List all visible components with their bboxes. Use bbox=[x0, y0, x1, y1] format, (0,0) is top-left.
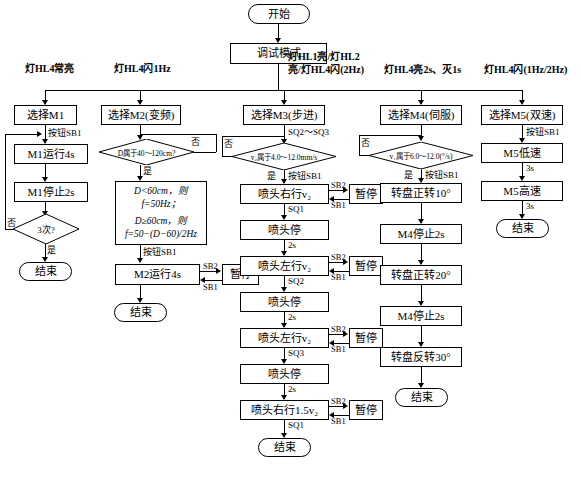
label-m4-button-sb1: 按钮SB1 bbox=[425, 168, 459, 181]
m2-no-loop-return bbox=[141, 134, 216, 135]
node-select-m3: 选择M3(步进) bbox=[243, 105, 325, 125]
m3-sb2-line-2 bbox=[329, 262, 344, 263]
node-m3-s6: 喷头停 bbox=[240, 364, 329, 384]
node-m3-end-label: 结束 bbox=[274, 441, 296, 454]
node-m1-run-label: M1运行4s bbox=[27, 148, 74, 161]
node-m2-run: M2运行4s bbox=[115, 264, 200, 285]
node-m1-decision-label: 3次? bbox=[13, 214, 79, 244]
node-m3-decision-label: v₂属于4.0～12.0mm/s bbox=[232, 143, 336, 170]
node-select-m5: 选择M5(双速) bbox=[481, 105, 563, 125]
label-m3-sb1-3: SB1 bbox=[331, 344, 346, 354]
node-m5-end-label: 结束 bbox=[512, 222, 534, 235]
node-select-m2: 选择M2(变频) bbox=[101, 105, 181, 125]
label-m2-yes: 是 bbox=[143, 164, 152, 177]
label-m5-t2: 3s bbox=[526, 201, 534, 211]
node-m3-end: 结束 bbox=[258, 438, 311, 457]
branch-label-m1: 灯HL4常亮 bbox=[25, 60, 74, 75]
node-m3-s5: 喷头左行v₂ bbox=[240, 328, 329, 348]
node-m5-s2: M5高速 bbox=[481, 181, 563, 201]
m1-no-loop-h bbox=[5, 229, 14, 230]
label-m1-button-sb1: 按钮SB1 bbox=[48, 126, 82, 139]
node-m3-s2-label: 喷头停 bbox=[268, 224, 301, 237]
node-m4-s2-label: M4停止2s bbox=[397, 228, 444, 241]
node-m3-pause-2-label: 暂停 bbox=[355, 260, 377, 273]
label-m3-sb1-1: SB1 bbox=[331, 200, 346, 210]
node-m4-s1: 转盘正转10° bbox=[380, 183, 462, 203]
label-m1-no: 否 bbox=[7, 216, 16, 229]
node-m3-s4: 喷头停 bbox=[240, 292, 329, 312]
node-m1-decision: 3次? bbox=[13, 214, 79, 244]
node-m5-end: 结束 bbox=[496, 219, 549, 238]
label-m3-yes: 是 bbox=[267, 169, 276, 182]
m3-no-loop-h bbox=[222, 156, 233, 157]
node-start-label: 开始 bbox=[268, 8, 290, 21]
branch-label-m4: 灯HL4亮2s、灭1s bbox=[384, 61, 461, 76]
node-m4-s3: 转盘正转20° bbox=[380, 265, 462, 285]
m2-no-loop-v bbox=[216, 134, 217, 152]
label-m5-t1: 3s bbox=[526, 163, 534, 173]
m3-sb2-line-3 bbox=[329, 334, 344, 335]
label-m2-sb2: SB2 bbox=[203, 261, 218, 271]
label-m3-sb2-2: SB2 bbox=[331, 252, 346, 262]
node-m4-s3-label: 转盘正转20° bbox=[391, 269, 450, 282]
node-m3-s7: 喷头右行1.5v₂ bbox=[240, 400, 329, 420]
label-m4-no: 否 bbox=[361, 136, 370, 149]
label-m3-t5: SQ3 bbox=[288, 348, 304, 358]
m2-sb1-line bbox=[205, 280, 222, 281]
node-m3-pause-2: 暂停 bbox=[349, 256, 383, 276]
node-m3-pause-1: 暂停 bbox=[349, 184, 383, 204]
node-select-m4-label: 选择M4(伺服) bbox=[388, 109, 455, 122]
m2-sb2-line bbox=[200, 271, 217, 272]
arrow-m4-select-decision bbox=[418, 136, 424, 141]
label-m4-yes: 是 bbox=[404, 168, 413, 181]
node-m2-end: 结束 bbox=[114, 303, 167, 322]
node-m2-formula-line3: D≥60cm，则 bbox=[135, 215, 188, 228]
node-m2-decision: D属于40～120cm? bbox=[99, 139, 194, 165]
node-select-m2-label: 选择M2(变频) bbox=[108, 109, 175, 122]
node-m5-s2-label: M5高速 bbox=[503, 185, 540, 198]
node-m3-pause-4-label: 暂停 bbox=[355, 404, 377, 417]
node-m3-pause-3: 暂停 bbox=[349, 328, 383, 348]
label-m3-t3: SQ2 bbox=[288, 276, 304, 286]
node-select-m5-label: 选择M5(双速) bbox=[489, 109, 556, 122]
node-m4-decision-label: v₁属于6.0～12.0(°/s) bbox=[369, 142, 473, 169]
m1-no-loop-v bbox=[5, 134, 6, 229]
node-m4-end-label: 结束 bbox=[411, 391, 433, 404]
node-m4-decision: v₁属于6.0～12.0(°/s) bbox=[369, 142, 473, 169]
node-m3-s3-label: 喷头左行v₂ bbox=[258, 260, 311, 273]
node-m5-s1: M5低速 bbox=[481, 143, 563, 163]
label-m3-button-sb1: 按钮SB1 bbox=[288, 169, 322, 182]
label-m3-sb1-2: SB1 bbox=[331, 272, 346, 282]
node-m4-s2: M4停止2s bbox=[380, 224, 462, 244]
flowchart-canvas: 开始 调试模式 灯HL4常亮 灯HL4闪1Hz 灯HL1亮/灯HL2 亮/灯HL… bbox=[0, 0, 581, 478]
m3-sb2-line-4 bbox=[329, 406, 344, 407]
node-m3-s1-label: 喷头右行v₂ bbox=[258, 188, 311, 201]
node-m1-run: M1运行4s bbox=[14, 144, 88, 164]
m2-no-loop-h bbox=[194, 152, 216, 153]
node-m2-formula: D<60cm，则 f=50Hz； D≥60cm，则 f=50−(D−60)/2H… bbox=[115, 181, 207, 245]
label-m2-sb1: SB1 bbox=[203, 282, 218, 292]
node-m3-s4-label: 喷头停 bbox=[268, 296, 301, 309]
node-m3-s1: 喷头右行v₂ bbox=[240, 184, 329, 204]
node-m1-stop: M1停止2s bbox=[14, 182, 88, 202]
node-m4-s4: M4停止2s bbox=[380, 306, 462, 326]
node-m3-pause-4: 暂停 bbox=[349, 400, 383, 420]
label-m2-no: 否 bbox=[191, 135, 200, 148]
node-m3-pause-1-label: 暂停 bbox=[355, 188, 377, 201]
branch-label-m5: 灯HL4闪(1Hz/2Hz) bbox=[484, 61, 567, 76]
m3-no-loop-v bbox=[222, 136, 223, 156]
node-m3-pause-3-label: 暂停 bbox=[355, 332, 377, 345]
node-m3-s7-label: 喷头右行1.5v₂ bbox=[251, 404, 318, 417]
node-m2-formula-line2: f=50Hz； bbox=[141, 198, 180, 211]
label-m3-sb2-4: SB2 bbox=[331, 396, 346, 406]
label-m3-sb1-4: SB1 bbox=[331, 416, 346, 426]
label-m3-t2: 2s bbox=[288, 240, 296, 250]
node-m4-s5: 转盘反转30° bbox=[380, 347, 462, 367]
label-m3-sq-top: SQ2～SQ3 bbox=[288, 125, 329, 138]
node-m1-end: 结束 bbox=[19, 262, 72, 281]
node-m3-s6-label: 喷头停 bbox=[268, 368, 301, 381]
node-m2-decision-label: D属于40～120cm? bbox=[99, 139, 194, 165]
node-m4-end: 结束 bbox=[395, 388, 448, 407]
node-m4-s1-label: 转盘正转10° bbox=[391, 187, 450, 200]
node-m1-end-label: 结束 bbox=[35, 265, 57, 278]
